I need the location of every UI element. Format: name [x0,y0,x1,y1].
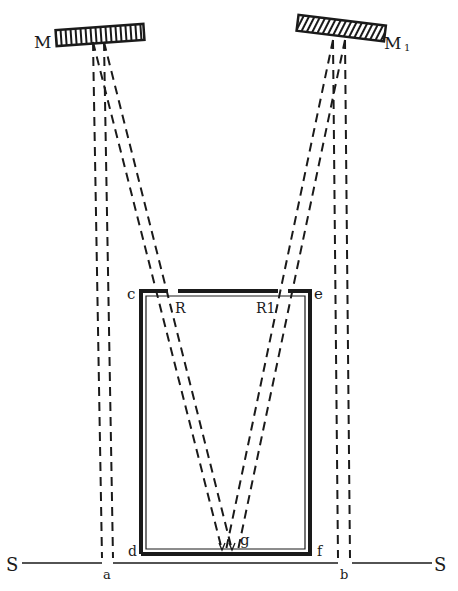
label-f: f [317,543,324,559]
label-d: d [128,543,137,559]
rays-from-m [93,42,232,558]
label-r1: R1 [256,300,275,316]
label-b: b [340,567,348,582]
label-r: R [175,300,186,316]
label-s-right: S [434,554,446,575]
mirror-m1 [297,15,386,42]
optics-diagram: M M 1 c e R R1 d f g S S a b [0,0,458,591]
label-e: e [314,285,323,303]
label-m1-subscript: 1 [404,42,410,53]
label-m1: M [384,33,401,53]
label-a: a [103,567,111,582]
mirror-m [56,24,145,46]
label-g: g [240,531,250,549]
box-cefd [141,291,310,554]
label-c: c [127,285,135,303]
rays-from-m1 [226,40,350,558]
label-s-left: S [6,554,18,575]
label-m: M [34,32,51,52]
